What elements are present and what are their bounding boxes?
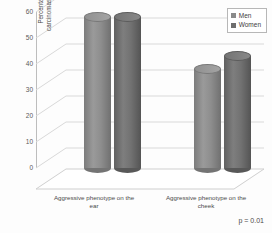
legend-item-women: Women [231, 20, 261, 29]
p-value-annotation: p = 0.01 [239, 217, 265, 224]
x-axis-label-cheek: Aggressive phenotype on the cheek [146, 194, 266, 210]
bar-cylinder [194, 64, 221, 168]
y-tick-label: 50 [26, 35, 33, 42]
cylinder-body [194, 69, 221, 168]
bar-series-group [36, 12, 264, 168]
bar-chart: 0102030405060 Percentage of basal cell c… [0, 0, 272, 233]
y-tick-label: 60 [26, 9, 33, 16]
bar-cylinder [114, 12, 141, 168]
y-tick-label: 10 [26, 139, 33, 146]
legend-swatch-icon [231, 23, 236, 28]
cylinder-body [84, 17, 111, 168]
chart-legend: Men Women [227, 8, 267, 33]
x-axis-labels: Aggressive phenotype on the ear Aggressi… [36, 194, 264, 220]
x-label-line2: cheek [146, 202, 266, 210]
y-tick-label: 40 [26, 61, 33, 68]
x-axis-label-ear: Aggressive phenotype on the ear [34, 194, 154, 210]
y-tick-label: 20 [26, 113, 33, 120]
x-label-line1: Aggressive phenotype on the [34, 194, 154, 202]
legend-item-men: Men [231, 11, 261, 20]
legend-label-men: Men [239, 11, 252, 20]
y-tick-label: 30 [26, 87, 33, 94]
x-label-line1: Aggressive phenotype on the [146, 194, 266, 202]
y-tick-label: 0 [29, 165, 33, 172]
cylinder-body [114, 17, 141, 168]
cylinder-body [224, 56, 251, 168]
legend-label-women: Women [239, 20, 261, 29]
x-label-line2: ear [34, 202, 154, 210]
plot-area: 0102030405060 Percentage of basal cell c… [36, 12, 264, 190]
bar-cylinder [84, 12, 111, 168]
legend-swatch-icon [231, 13, 236, 18]
bar-cylinder [224, 51, 251, 168]
